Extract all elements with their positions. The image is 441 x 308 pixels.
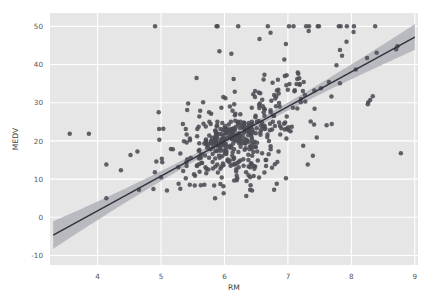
figure-canvas: 456789 50403020100-10 RM MEDV xyxy=(0,0,441,308)
x-tick-label: 7 xyxy=(286,272,291,281)
y-tick-label: 0 xyxy=(38,213,43,222)
x-tick-label: 9 xyxy=(413,272,418,281)
x-tick-label: 4 xyxy=(95,272,100,281)
y-tick-label: 20 xyxy=(34,137,44,146)
x-axis-title: RM xyxy=(228,283,240,292)
y-tick-label: 50 xyxy=(34,22,44,31)
y-tick-label: 40 xyxy=(34,60,44,69)
x-tick-label: 5 xyxy=(159,272,164,281)
y-tick-label: 30 xyxy=(34,98,44,107)
y-axis-title: MEDV xyxy=(11,127,20,150)
x-tick-label: 6 xyxy=(222,272,227,281)
x-tick-label: 8 xyxy=(349,272,354,281)
y-tick-label: 10 xyxy=(34,175,44,184)
y-tick-label: -10 xyxy=(31,251,43,260)
scatter-plot: 456789 50403020100-10 RM MEDV xyxy=(0,0,441,308)
